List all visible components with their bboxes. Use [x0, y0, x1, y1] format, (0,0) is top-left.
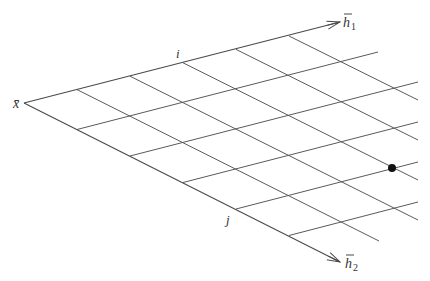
h2-label-letter: h	[345, 256, 352, 271]
grid-diagram: x̄ h 1 h 2 i j	[0, 0, 430, 281]
h1-label-subscript: 1	[351, 21, 356, 32]
h1-axis-arrow	[24, 22, 340, 103]
grid-line-h1-parallel	[77, 52, 378, 130]
grid-line-h2-parallel	[236, 49, 418, 140]
grid-line-h2-parallel	[289, 36, 418, 100]
grid-line-h1-parallel	[183, 122, 418, 183]
h1-label-letter: h	[343, 15, 350, 30]
h2-label-subscript: 2	[353, 262, 358, 273]
origin-label: x̄	[12, 96, 20, 111]
h2-axis-label: h 2	[345, 255, 358, 273]
index-label-j: j	[224, 212, 230, 227]
h2-axis-arrow	[24, 103, 340, 262]
grid-line-h1-parallel	[289, 202, 418, 236]
grid-line-h2-parallel	[130, 76, 418, 220]
grid-lines	[77, 36, 418, 241]
h1-axis-label: h 1	[343, 14, 356, 32]
grid-line-h2-parallel	[183, 63, 418, 180]
index-label-i: i	[176, 46, 180, 61]
marked-grid-point	[388, 164, 396, 172]
